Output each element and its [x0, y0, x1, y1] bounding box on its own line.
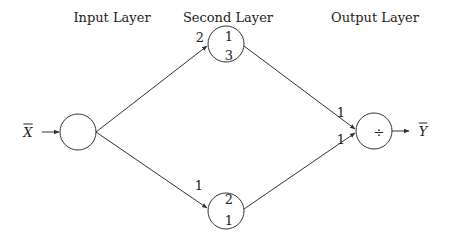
second-top-node-bottom-value: 3	[225, 49, 233, 62]
output-node-divide-symbol: ÷	[374, 126, 385, 139]
header-second-layer: Second Layer	[183, 11, 273, 24]
second-bottom-node-bottom-value: 1	[225, 214, 233, 227]
weight-bottom-to-output: 1	[337, 133, 345, 146]
edge-input-to-bottom	[96, 132, 207, 208]
header-output-layer: Output Layer	[331, 11, 419, 24]
edge-input-to-top	[96, 46, 207, 132]
weight-top-to-output: 1	[337, 106, 345, 119]
output-symbol: Y	[419, 125, 428, 138]
weight-input-to-bottom: 1	[195, 179, 203, 192]
input-node	[60, 114, 96, 150]
input-symbol: X	[23, 126, 32, 139]
second-bottom-node-top-value: 2	[225, 193, 233, 206]
second-top-node-top-value: 1	[225, 30, 233, 43]
header-input-layer: Input Layer	[73, 11, 150, 24]
weight-input-to-top: 2	[196, 31, 204, 44]
